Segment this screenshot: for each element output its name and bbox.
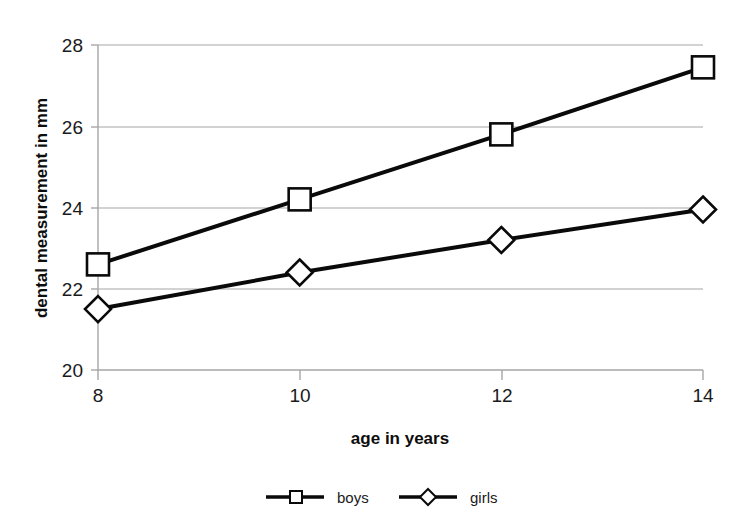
legend-label-girls: girls	[470, 489, 498, 506]
data-point-boys-10	[289, 188, 311, 210]
chart-container: 28 26 24 22 20 8 10 12 14 age in years d…	[0, 0, 739, 528]
y-tick-label-22: 22	[62, 279, 83, 300]
y-tick-label-20: 20	[62, 360, 83, 381]
x-tick-label-14: 14	[692, 385, 714, 406]
line-chart: 28 26 24 22 20 8 10 12 14 age in years d…	[0, 0, 739, 528]
legend-marker-square	[290, 491, 302, 503]
data-point-girls-12	[488, 227, 514, 253]
series-layer	[85, 56, 716, 322]
x-axis-title: age in years	[351, 429, 449, 448]
data-point-boys-12	[490, 123, 512, 145]
y-tick-label-28: 28	[62, 35, 83, 56]
data-point-girls-8	[85, 296, 111, 322]
y-tick-label-24: 24	[62, 198, 84, 219]
data-point-girls-10	[287, 260, 313, 286]
x-tick-label-12: 12	[491, 385, 512, 406]
y-axis-title: dental measurement in mm	[32, 98, 51, 318]
y-tick-labels: 28 26 24 22 20	[62, 35, 84, 381]
legend-label-boys: boys	[337, 489, 369, 506]
data-point-boys-14	[692, 56, 714, 78]
data-point-boys-8	[87, 253, 109, 275]
series-girls	[85, 197, 716, 323]
x-tick-labels: 8 10 12 14	[93, 385, 714, 406]
x-tick-marks	[98, 370, 703, 380]
legend-marker-diamond	[420, 489, 436, 505]
legend-item-girls[interactable]: girls	[399, 489, 498, 506]
legend-item-boys[interactable]: boys	[266, 489, 369, 506]
series-line-girls	[98, 210, 703, 310]
y-tick-label-26: 26	[62, 117, 83, 138]
series-boys	[87, 56, 714, 275]
data-point-girls-14	[690, 197, 716, 223]
x-tick-label-8: 8	[93, 385, 104, 406]
x-tick-label-10: 10	[289, 385, 310, 406]
series-line-boys	[98, 67, 703, 264]
chart-legend: boys girls	[266, 489, 498, 506]
